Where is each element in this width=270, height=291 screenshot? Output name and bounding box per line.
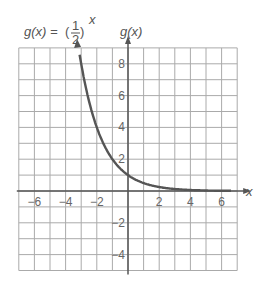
x-tick-label: −4 — [59, 195, 73, 209]
exponential-chart: −6−4−2246−4−22468 g(x) = ( 1 2 ) x g(x) … — [0, 0, 270, 291]
y-tick-label: −4 — [111, 248, 125, 262]
y-axis-label: g(x) — [120, 24, 142, 39]
x-tick-label: −2 — [90, 195, 104, 209]
title-exponent: x — [88, 12, 96, 27]
y-tick-label: 6 — [118, 89, 125, 103]
x-axis-label: x — [245, 184, 253, 199]
x-tick-label: 2 — [156, 195, 163, 209]
x-tick-label: −6 — [28, 195, 42, 209]
x-tick-label: 6 — [218, 195, 225, 209]
fraction-numerator: 1 — [72, 18, 79, 33]
y-tick-label: 8 — [118, 57, 125, 71]
y-tick-label: −2 — [111, 216, 125, 230]
y-tick-label: 2 — [118, 152, 125, 166]
function-title: g(x) = ( 1 2 ) x — [24, 12, 96, 47]
y-tick-label: 4 — [118, 120, 125, 134]
paren-close: ) — [80, 24, 84, 39]
paren-open: ( — [65, 24, 70, 39]
x-tick-label: 4 — [187, 195, 194, 209]
title-lhs: g(x) = — [24, 24, 58, 39]
curve-g-x — [80, 55, 231, 191]
